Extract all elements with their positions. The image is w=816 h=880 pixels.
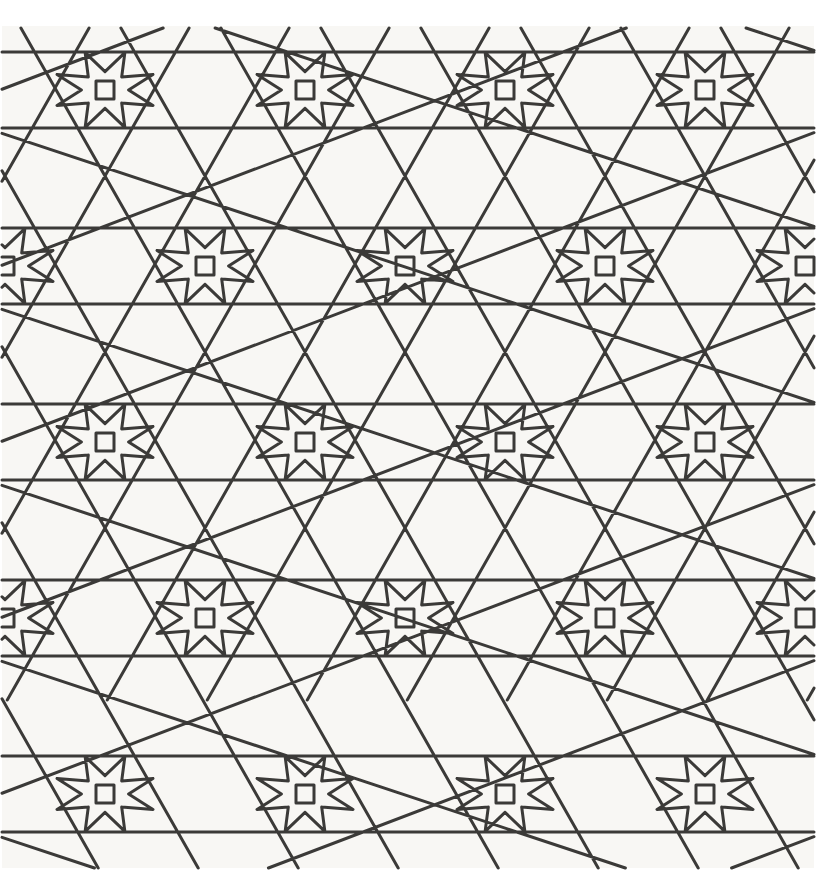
- artwork-frame: Islamic Geometric Star Pattern girih eig…: [0, 0, 816, 880]
- geometric-pattern-canvas: [0, 0, 816, 880]
